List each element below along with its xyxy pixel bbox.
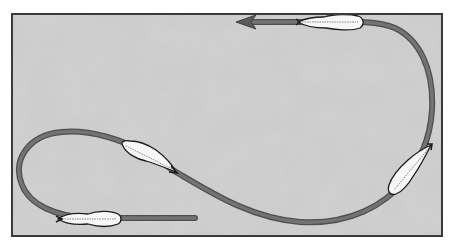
diagram-frame bbox=[11, 13, 443, 237]
diagram-canvas bbox=[11, 13, 443, 237]
